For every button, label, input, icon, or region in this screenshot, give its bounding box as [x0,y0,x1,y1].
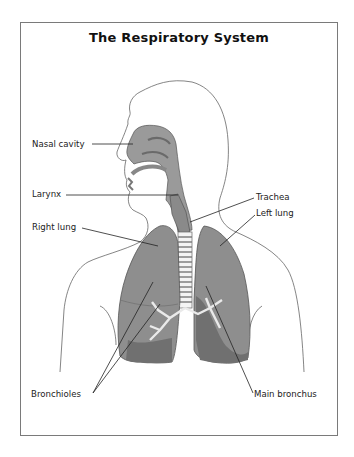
left-lung-shape [194,226,250,363]
label-larynx: Larynx [32,189,61,199]
label-nasal-cavity: Nasal cavity [32,139,84,149]
label-bronchioles: Bronchioles [31,389,81,399]
label-left-lung: Left lung [256,208,294,218]
label-main-bronchus: Main bronchus [254,389,317,399]
label-right-lung: Right lung [32,222,76,232]
label-trachea: Trachea [256,192,290,202]
right-lung-shape [118,226,180,364]
